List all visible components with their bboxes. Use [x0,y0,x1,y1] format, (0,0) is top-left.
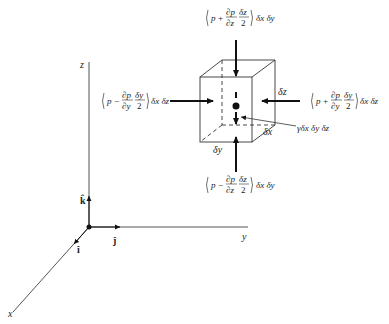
svg-text:2: 2 [346,101,351,111]
svg-text:∂z: ∂z [226,18,234,28]
svg-text:−: − [114,96,119,106]
svg-text:δy: δy [135,90,143,100]
svg-text:∂y: ∂y [122,101,130,111]
svg-text:p: p [315,96,321,106]
svg-text:p: p [210,13,216,23]
j-hat-label: ĵ [112,235,117,246]
dy-label: δy [213,144,223,155]
z-axis-label: z [79,59,84,70]
svg-text:∂p: ∂p [226,7,235,17]
svg-text:δy: δy [344,90,352,100]
svg-text:p: p [210,180,216,190]
svg-text:δz: δz [239,7,247,17]
i-hat-label: î [76,244,80,255]
svg-text:+: + [218,13,223,23]
dx-label: δx [263,126,273,137]
svg-text:δx δz: δx δz [360,96,379,106]
svg-text:2: 2 [137,101,142,111]
svg-text:p: p [106,96,112,106]
svg-text:δx δy: δx δy [256,180,275,190]
svg-text:2: 2 [241,185,246,195]
i-unit-vector [74,227,89,244]
dz-label: δz [278,86,287,97]
k-hat-label: k̂ [80,194,86,206]
top-force-label: p + ∂p ∂z δz 2 δx δy [207,7,275,28]
svg-text:2: 2 [241,18,246,28]
diagram-canvas: z y x k̂ ĵ î δz δx δy γδx δy δz p + ∂p [0,0,389,324]
x-axis-label: x [7,308,13,319]
y-axis-label: y [241,231,247,242]
weight-label: γδx δy δz [297,123,330,133]
weight-leader-line [241,117,296,126]
svg-text:δx δy: δx δy [256,13,275,23]
svg-text:+: + [323,96,328,106]
svg-text:∂p: ∂p [331,90,340,100]
svg-text:∂z: ∂z [226,185,234,195]
svg-text:δz: δz [239,174,247,184]
svg-text:∂p: ∂p [226,174,235,184]
left-force-label: p − ∂p ∂y δy 2 δx δz [103,90,170,111]
right-force-label: p + ∂p ∂y δy 2 δx δz [312,90,379,111]
svg-text:δx δz: δx δz [151,96,170,106]
svg-text:−: − [218,180,223,190]
element-center-point [233,103,240,110]
svg-text:∂y: ∂y [331,101,339,111]
bottom-force-label: p − ∂p ∂z δz 2 δx δy [207,174,275,195]
svg-text:∂p: ∂p [122,90,131,100]
